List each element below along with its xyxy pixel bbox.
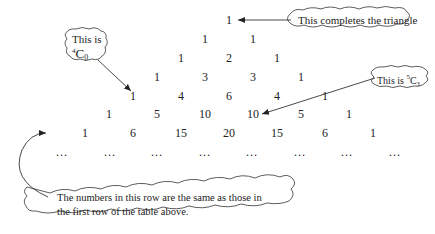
cell-r5-c4: 5 xyxy=(298,107,304,122)
top-callout-text: This completes the triangle xyxy=(298,13,417,27)
bottom-callout-line2: the first row of the table above. xyxy=(57,205,262,219)
cell-r5-c1: 5 xyxy=(154,107,160,122)
cell-r2-c1: 2 xyxy=(226,51,232,66)
ellipsis-4: … xyxy=(246,145,259,160)
cell-r0-c0: 1 xyxy=(226,13,232,28)
left-arrow xyxy=(98,60,131,91)
cell-r6-c2: 15 xyxy=(175,126,187,141)
cell-r5-c5: 1 xyxy=(346,107,352,122)
cell-r4-c3: 4 xyxy=(274,89,280,104)
cell-r6-c6: 1 xyxy=(370,126,376,141)
cell-r5-c3: 10 xyxy=(247,107,259,122)
cell-r3-c0: 1 xyxy=(154,70,160,85)
cell-r3-c3: 1 xyxy=(298,70,304,85)
left-callout-base: C xyxy=(76,46,85,61)
left-callout-sub: 0 xyxy=(84,53,88,62)
cell-r6-c4: 15 xyxy=(271,126,283,141)
cell-r6-c5: 6 xyxy=(322,126,328,141)
bottom-callout-text: The numbers in this row are the same as … xyxy=(57,191,262,219)
cell-r4-c4: 1 xyxy=(322,89,328,104)
cell-r1-c1: 1 xyxy=(250,32,256,47)
cell-r3-c2: 3 xyxy=(250,70,256,85)
cell-r1-c0: 1 xyxy=(202,32,208,47)
cell-r4-c2: 6 xyxy=(226,89,232,104)
right-callout-text: This is 5C3 xyxy=(377,70,420,91)
cell-r6-c3: 20 xyxy=(223,126,235,141)
ellipsis-7: … xyxy=(389,145,402,160)
cell-r6-c1: 6 xyxy=(130,126,136,141)
cell-r4-c0: 1 xyxy=(130,89,136,104)
bottom-callout-line1: The numbers in this row are the same as … xyxy=(57,191,262,205)
ellipsis-2: … xyxy=(151,145,164,160)
right-callout-base: C xyxy=(410,75,417,86)
right-callout-prefix: This is xyxy=(377,75,406,86)
left-callout-text: This is 4C0 xyxy=(72,33,102,64)
cell-r4-c1: 4 xyxy=(178,89,184,104)
ellipsis-0: … xyxy=(56,145,69,160)
left-callout-line2: 4C0 xyxy=(72,45,102,64)
cell-r2-c2: 1 xyxy=(274,51,280,66)
bottom-arrow xyxy=(19,133,48,197)
ellipsis-5: … xyxy=(294,145,307,160)
cell-r5-c0: 1 xyxy=(106,107,112,122)
cell-r2-c0: 1 xyxy=(178,51,184,66)
ellipsis-6: … xyxy=(341,145,354,160)
right-callout-sub: 3 xyxy=(417,81,420,87)
ellipsis-3: … xyxy=(199,145,212,160)
cell-r5-c2: 10 xyxy=(199,107,211,122)
left-callout-line1: This is xyxy=(72,33,102,45)
ellipsis-1: … xyxy=(104,145,117,160)
cell-r6-c0: 1 xyxy=(82,126,88,141)
cell-r3-c1: 3 xyxy=(202,70,208,85)
